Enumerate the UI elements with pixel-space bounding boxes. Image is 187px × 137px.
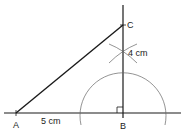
length-label-ab: 5 cm <box>41 116 61 126</box>
hypotenuse-ac <box>16 25 123 113</box>
length-label-bc: 4 cm <box>128 48 148 58</box>
point-label-a: A <box>13 120 19 130</box>
triangle-construction-diagram: C 4 cm A 5 cm B <box>0 0 187 137</box>
point-label-c: C <box>127 20 134 30</box>
right-angle-marker <box>117 107 123 113</box>
point-label-b: B <box>120 121 126 131</box>
